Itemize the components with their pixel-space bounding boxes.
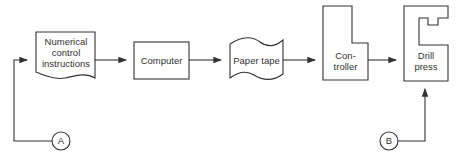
drill-press-label: Drill press	[404, 50, 448, 72]
controller-label: Con- troller	[323, 50, 368, 72]
connector-b-label: B	[380, 135, 398, 146]
connector-a-label: A	[52, 135, 70, 146]
connector-b-line	[398, 89, 425, 141]
paper-tape-label: Paper tape	[230, 55, 283, 66]
computer-label: Computer	[134, 55, 189, 66]
nc-label: Numerical control instructions	[36, 36, 96, 69]
connector-a-line	[14, 60, 52, 141]
